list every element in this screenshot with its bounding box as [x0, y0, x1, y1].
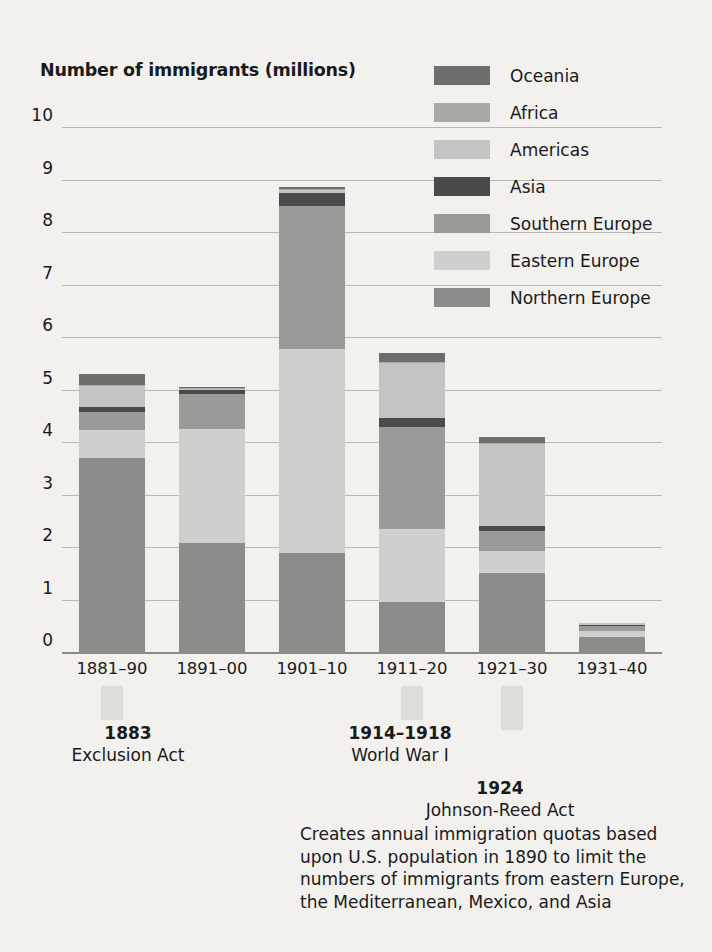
legend-swatch: [434, 288, 490, 307]
annotation-1883-year: 1883: [38, 723, 218, 744]
annotation-1883: 1883 Exclusion Act: [38, 723, 218, 766]
bar: [379, 353, 445, 652]
bar-segment: [479, 551, 545, 573]
bar-segment: [479, 444, 545, 525]
bar-segment: [179, 394, 245, 430]
immigration-stacked-bar-figure: Number of immigrants (millions) 01234567…: [0, 0, 712, 952]
annotation-1924-body: Creates annual immigration quotas based …: [300, 823, 700, 913]
legend: OceaniaAfricaAmericasAsiaSouthern Europe…: [434, 57, 653, 316]
legend-label: Eastern Europe: [510, 251, 640, 271]
x-axis-labels: 1881–901891–001901–101911–201921–301931–…: [62, 659, 662, 685]
legend-item: Oceania: [434, 57, 653, 94]
y-axis-tick-label: 0: [42, 632, 53, 649]
legend-swatch: [434, 103, 490, 122]
legend-item: Northern Europe: [434, 279, 653, 316]
y-axis-tick-label: 10: [31, 107, 53, 124]
legend-item: Southern Europe: [434, 205, 653, 242]
bar-segment: [179, 429, 245, 542]
bar-segment: [279, 193, 345, 206]
bar-segment: [79, 412, 145, 431]
legend-swatch: [434, 140, 490, 159]
legend-item: Americas: [434, 131, 653, 168]
annotation-ww1-year: 1914–1918: [300, 723, 500, 744]
x-axis-tick-label: 1891–00: [176, 659, 247, 678]
annotation-ww1-title: World War I: [300, 744, 500, 766]
annotation-leader-stub: [101, 686, 123, 720]
legend-label: Southern Europe: [510, 214, 653, 234]
y-axis-tick-label: 9: [42, 159, 53, 176]
bar-segment: [379, 602, 445, 652]
bar: [579, 623, 645, 652]
x-axis-tick-label: 1921–30: [476, 659, 547, 678]
legend-label: Americas: [510, 140, 589, 160]
bar-segment: [179, 543, 245, 652]
x-axis-tick-label: 1931–40: [576, 659, 647, 678]
legend-swatch: [434, 177, 490, 196]
bar-segment: [379, 353, 445, 362]
annotation-leader-stub: [501, 686, 523, 730]
annotation-1924-year: 1924: [300, 778, 700, 799]
bar-segment: [479, 573, 545, 652]
y-axis-tick-label: 6: [42, 317, 53, 334]
legend-label: Northern Europe: [510, 288, 651, 308]
y-axis-tick-label: 4: [42, 422, 53, 439]
annotation-leader-stub: [401, 686, 423, 720]
bar: [479, 437, 545, 652]
legend-item: Eastern Europe: [434, 242, 653, 279]
bar-segment: [479, 531, 545, 551]
annotation-johnson-reed: 1924 Johnson-Reed Act Creates annual imm…: [300, 778, 700, 913]
bar-segment: [379, 418, 445, 427]
annotation-1924-title: Johnson-Reed Act: [300, 799, 700, 821]
bar: [79, 374, 145, 652]
legend-item: Asia: [434, 168, 653, 205]
bar-segment: [579, 637, 645, 652]
legend-label: Oceania: [510, 66, 580, 86]
y-axis-tick-label: 8: [42, 212, 53, 229]
y-axis-tick-label: 5: [42, 369, 53, 386]
bar-segment: [379, 363, 445, 418]
x-axis-tick-label: 1911–20: [376, 659, 447, 678]
legend-label: Africa: [510, 103, 559, 123]
bar-segment: [279, 553, 345, 652]
bar-segment: [79, 458, 145, 652]
legend-swatch: [434, 214, 490, 233]
legend-item: Africa: [434, 94, 653, 131]
bar: [179, 387, 245, 652]
bar-segment: [79, 430, 145, 457]
legend-swatch: [434, 66, 490, 85]
bar-segment: [79, 386, 145, 407]
gridline: [62, 652, 662, 654]
bar-segment: [79, 374, 145, 386]
legend-swatch: [434, 251, 490, 270]
annotation-world-war-i: 1914–1918 World War I: [300, 723, 500, 766]
y-axis-tick-label: 7: [42, 264, 53, 281]
x-axis-tick-label: 1901–10: [276, 659, 347, 678]
page-title: Number of immigrants (millions): [40, 60, 356, 80]
y-axis-tick-label: 1: [42, 579, 53, 596]
legend-label: Asia: [510, 177, 546, 197]
bar-segment: [379, 427, 445, 529]
x-axis-tick-label: 1881–90: [76, 659, 147, 678]
y-axis-tick-label: 2: [42, 527, 53, 544]
bar-segment: [379, 529, 445, 601]
annotation-1883-title: Exclusion Act: [38, 744, 218, 766]
y-axis-tick-label: 3: [42, 474, 53, 491]
bar-segment: [279, 349, 345, 554]
bar-segment: [279, 206, 345, 349]
bar: [279, 187, 345, 652]
